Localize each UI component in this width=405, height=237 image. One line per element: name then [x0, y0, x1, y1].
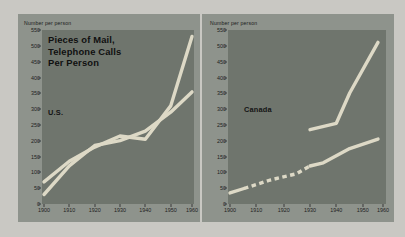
right-y-tick-marks	[224, 30, 228, 204]
left-y-tick-labels: 550 500 450 400 350 300 250 200 150 100 …	[18, 30, 40, 204]
left-x-tick: 1940	[139, 207, 151, 213]
right-y-tick-labels: 550 500 450 400 350 300 250 200 150 100 …	[204, 30, 226, 204]
right-x-tick: 1900	[224, 207, 236, 213]
chart-title-line-1: Pieces of Mail,	[48, 34, 121, 46]
left-x-tick: 1960	[186, 207, 198, 213]
left-x-tick: 1900	[38, 207, 50, 213]
left-x-tick: 1950	[165, 207, 177, 213]
right-x-tick: 1930	[304, 207, 316, 213]
chart-title: Pieces of Mail, Telephone Calls Per Pers…	[48, 34, 121, 69]
right-x-tick: 1910	[250, 207, 262, 213]
right-region-label: Canada	[244, 105, 272, 114]
figure-canvas: Number per person Pieces of Mail, Teleph…	[0, 0, 405, 237]
left-y-axis-caption: Number per person	[24, 20, 71, 26]
left-region-label: U.S.	[48, 108, 63, 117]
right-series-telephone	[310, 42, 378, 129]
right-x-tick: 1960	[377, 207, 389, 213]
right-series-group	[228, 30, 386, 204]
right-y-axis-caption: Number per person	[210, 20, 257, 26]
chart-title-line-2: Telephone Calls	[48, 46, 121, 58]
left-y-tick-marks	[38, 30, 42, 204]
left-x-tick-labels: 1900 1910 1920 1930 1940 1950 1960	[42, 207, 194, 217]
right-x-tick-labels: 1900 1910 1920 1930 1940 1950 1960	[228, 207, 386, 217]
left-x-tick: 1930	[114, 207, 126, 213]
right-series-mail-dashed	[244, 166, 310, 189]
right-x-tick: 1920	[278, 207, 290, 213]
chart-title-line-3: Per Person	[48, 57, 121, 69]
right-x-tick: 1940	[330, 207, 342, 213]
left-x-tick: 1920	[89, 207, 101, 213]
right-series-mail-head	[230, 189, 244, 193]
right-plot-area	[228, 30, 386, 204]
left-x-tick: 1910	[63, 207, 75, 213]
right-series-mail-tail	[310, 139, 378, 166]
right-x-tick: 1950	[357, 207, 369, 213]
